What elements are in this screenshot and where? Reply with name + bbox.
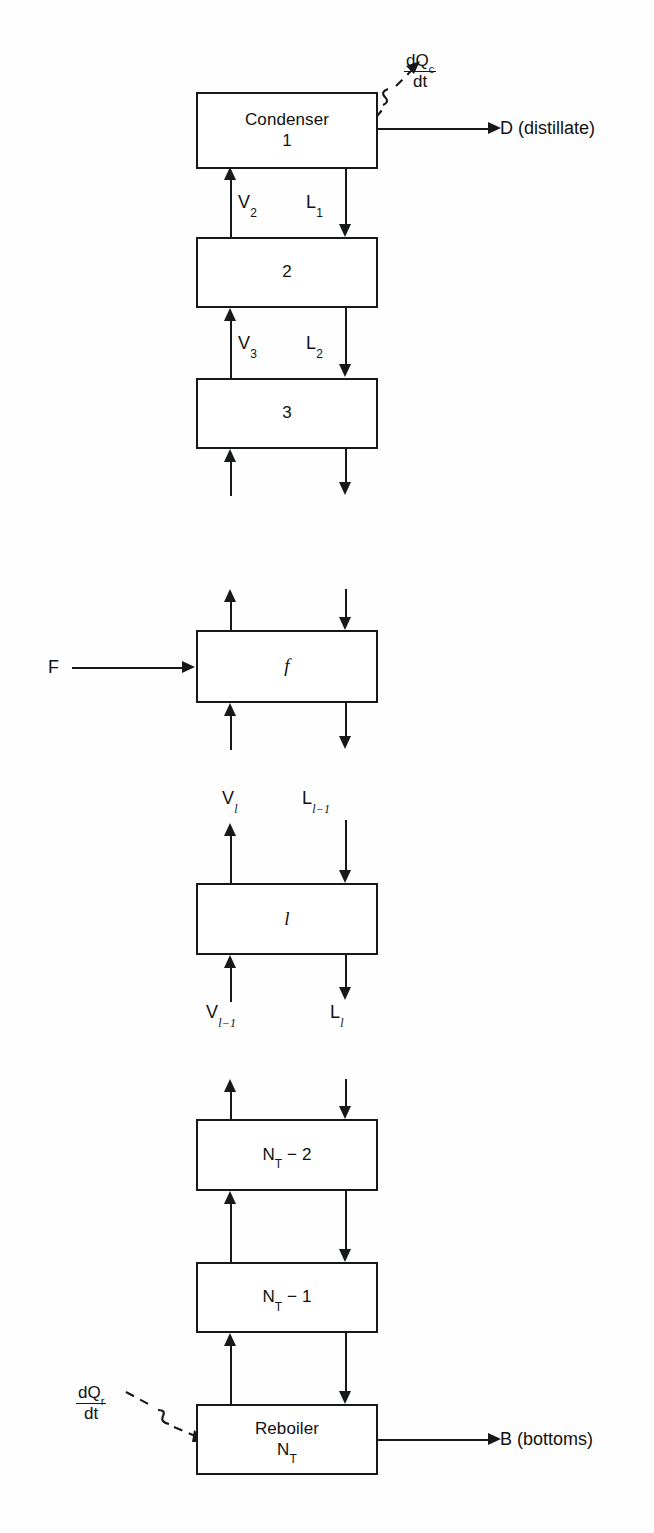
reboiler-label-line1: Reboiler (255, 1419, 319, 1439)
distillate-flow-line (378, 128, 490, 130)
l-l-arrowhead (339, 987, 351, 1000)
l-l-minus-1-label: Ll−1 (302, 788, 330, 809)
feed-stream-label: F (48, 657, 59, 678)
feed-liquid-in-line (345, 589, 347, 620)
v2-label: V2 (238, 192, 257, 213)
distillation-stage-diagram: dQc dt Condenser 1 D (distillate) V2 L1 … (0, 0, 654, 1533)
stage-3-liquid-out-arrowhead (339, 482, 351, 495)
v-l-minus-1-arrowhead (224, 955, 236, 968)
v2-arrowhead (224, 167, 236, 180)
reboiler-vapor-out-arrowhead (224, 1333, 236, 1346)
condenser-label-line2: 1 (282, 131, 292, 151)
nt2-liquid-out-line (345, 1191, 347, 1251)
feed-stream-line (72, 667, 184, 669)
stage-2-label: 2 (282, 262, 292, 282)
stage-box-nt-minus-1[interactable]: NT − 1 (196, 1262, 378, 1333)
bottoms-flow-line (378, 1439, 490, 1441)
condenser-label-line1: Condenser (245, 110, 329, 130)
v3-flow-line (230, 319, 232, 379)
nt1-liquid-out-arrowhead (339, 1391, 351, 1404)
stage-3-vapor-in-arrowhead (224, 449, 236, 462)
v2-flow-line (230, 178, 232, 238)
stage-box-2[interactable]: 2 (196, 237, 378, 308)
nt2-vapor-out-arrowhead (224, 1079, 236, 1092)
l-l-flow-line (345, 955, 347, 989)
l2-label: L2 (306, 333, 323, 354)
stage-box-reboiler[interactable]: Reboiler NT (196, 1404, 378, 1475)
feed-vapor-in-arrowhead (224, 703, 236, 716)
v-l-minus-1-flow-line (230, 966, 232, 1002)
l1-flow-line (345, 169, 347, 226)
nt-minus-1-label: NT − 1 (262, 1287, 311, 1307)
stage-box-nt-minus-2[interactable]: NT − 2 (196, 1119, 378, 1191)
reboiler-label-line2: NT (277, 1440, 297, 1460)
nt2-vapor-out-line (230, 1090, 232, 1120)
v-l-minus-1-label: Vl−1 (206, 1002, 236, 1023)
l-l-minus-1-flow-line (345, 820, 347, 872)
feed-vapor-in-line (230, 714, 232, 750)
stage-3-liquid-out-line (345, 449, 347, 484)
v-l-flow-line (230, 834, 232, 884)
v3-label: V3 (238, 333, 257, 354)
nt1-vapor-out-arrowhead (224, 1191, 236, 1204)
feed-liquid-in-arrowhead (339, 617, 351, 630)
nt2-liquid-out-arrowhead (339, 1249, 351, 1262)
stage-box-feed[interactable]: f (196, 630, 378, 703)
stage-l-label: l (284, 908, 289, 930)
bottoms-label: B (bottoms) (500, 1429, 593, 1450)
feed-vapor-out-line (230, 600, 232, 632)
condenser-heat-duty-label: dQc dt (404, 52, 436, 92)
reboiler-heat-duty-label: dQr dt (76, 1384, 106, 1424)
l1-label: L1 (306, 192, 323, 213)
feed-stage-label: f (284, 655, 289, 677)
nt1-liquid-out-line (345, 1333, 347, 1393)
feed-liquid-out-arrowhead (339, 736, 351, 749)
stage-3-vapor-in-line (230, 460, 232, 496)
feed-vapor-out-arrowhead (224, 589, 236, 602)
v3-arrowhead (224, 308, 236, 321)
feed-liquid-out-line (345, 703, 347, 738)
nt2-liquid-in-arrowhead (339, 1106, 351, 1119)
feed-stream-arrowhead (182, 661, 195, 673)
l2-flow-line (345, 308, 347, 366)
stage-box-3[interactable]: 3 (196, 378, 378, 449)
nt-minus-2-label: NT − 2 (262, 1145, 311, 1165)
distillate-label: D (distillate) (500, 118, 595, 139)
stage-box-condenser[interactable]: Condenser 1 (196, 92, 378, 169)
v-l-arrowhead (224, 823, 236, 836)
nt2-liquid-in-line (345, 1079, 347, 1109)
stage-box-l[interactable]: l (196, 883, 378, 955)
v-l-label: Vl (222, 788, 238, 809)
stage-3-label: 3 (282, 403, 292, 423)
nt1-vapor-out-line (230, 1202, 232, 1264)
l2-arrowhead (339, 364, 351, 377)
l-l-label: Ll (330, 1002, 344, 1023)
l1-arrowhead (339, 224, 351, 237)
l-l-minus-1-arrowhead (339, 870, 351, 883)
